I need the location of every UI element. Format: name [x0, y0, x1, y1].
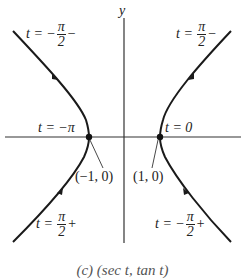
- label-bottom-right: t = −π2+: [155, 210, 205, 239]
- label-left-vertex-point: (−1, 0): [75, 170, 113, 184]
- left-vertex-dot: [86, 134, 92, 140]
- label-right-vertex-point: (1, 0): [133, 170, 163, 184]
- label-top-right: t = π2−: [176, 20, 217, 49]
- left-vertex-leader: [90, 140, 103, 168]
- right-vertex-dot: [157, 134, 163, 140]
- label-bottom-left: t = π2+: [36, 210, 77, 239]
- label-top-left: t = −π2−: [26, 20, 76, 49]
- y-axis-label: y: [119, 4, 125, 18]
- figure-caption: (c) (sec t, tan t): [0, 262, 245, 279]
- label-left-vertex-param: t = −π: [38, 121, 75, 135]
- label-right-vertex-param: t = 0: [165, 121, 192, 135]
- right-vertex-leader: [152, 140, 158, 168]
